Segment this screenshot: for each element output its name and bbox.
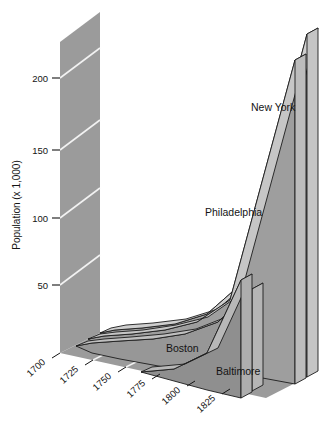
x-tick-label-1750: 1750 (90, 370, 113, 392)
x-tickmark-1725 (85, 360, 93, 365)
series-label-baltimore: Baltimore (216, 365, 261, 377)
back-wall (60, 12, 100, 353)
x-tickmark-1750 (118, 367, 126, 372)
x-tick-label-1725: 1725 (57, 363, 80, 385)
chart-figure: 200 150 100 50 Population (x 1,000) 1700… (0, 0, 321, 426)
x-tick-label-1775: 1775 (124, 377, 147, 399)
series-label-new-york: New York (251, 101, 296, 113)
x-tickmark-1700 (52, 353, 60, 358)
y-tick-label-200: 200 (32, 73, 48, 84)
y-axis-title: Population (x 1,000) (11, 160, 22, 250)
series-label-philadelphia: Philadelphia (205, 206, 262, 218)
y-tick-label-100: 100 (32, 213, 48, 224)
x-tick-label-1700: 1700 (24, 356, 47, 378)
y-tick-label-150: 150 (32, 145, 48, 156)
philadelphia-endcap (295, 54, 306, 384)
y-tick-label-50: 50 (37, 280, 48, 291)
x-tick-label-1800: 1800 (159, 384, 182, 406)
y-axis-tickmarks (52, 78, 60, 285)
x-tick-label-1825: 1825 (194, 392, 217, 414)
y-axis: 200 150 100 50 Population (x 1,000) (11, 73, 60, 291)
series-label-boston: Boston (166, 342, 199, 354)
baltimore-endcap (241, 274, 252, 398)
new-york-endcap (307, 28, 318, 377)
population-3d-area-chart: 200 150 100 50 Population (x 1,000) 1700… (0, 0, 321, 426)
